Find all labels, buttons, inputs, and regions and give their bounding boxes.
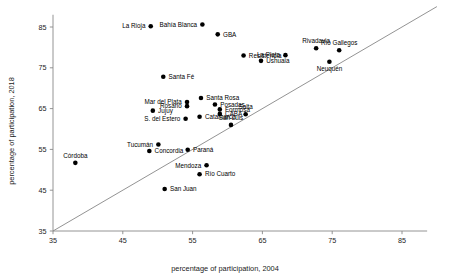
y-axis-title: percentage of participation, 2018: [7, 77, 16, 185]
data-point: [183, 117, 188, 122]
data-point-label: Mendoza: [175, 162, 201, 169]
data-point: [204, 163, 209, 168]
data-point-label: Salta: [238, 103, 253, 110]
data-point: [337, 48, 342, 53]
data-point: [161, 74, 166, 79]
data-point: [156, 142, 161, 147]
x-tick-label: 35: [49, 236, 57, 245]
data-point: [327, 59, 332, 64]
y-tick-label: 75: [39, 63, 47, 72]
data-point: [197, 114, 202, 119]
data-point: [314, 46, 319, 51]
data-point-label: Córdoba: [63, 152, 88, 159]
data-point-label: Paraná: [193, 146, 214, 153]
data-point-label: Tucumán: [127, 141, 154, 148]
x-tick-label: 45: [119, 236, 127, 245]
data-point: [162, 187, 167, 192]
data-point-label: Ushuaia: [266, 57, 290, 64]
data-point: [215, 32, 220, 37]
data-point: [213, 102, 218, 107]
data-point: [199, 96, 204, 101]
x-tick-label: 55: [189, 236, 197, 245]
y-tick-label: 65: [39, 104, 47, 113]
y-tick-label: 85: [39, 23, 47, 32]
data-point-label: Bahía Blanca: [160, 21, 198, 28]
x-axis-title: percentage of participation, 2004: [171, 264, 279, 273]
data-point-label: San Juan: [170, 185, 197, 192]
data-point: [185, 104, 190, 109]
plot-background: [0, 0, 450, 278]
data-point: [241, 53, 246, 58]
data-point: [197, 172, 202, 177]
data-point-label: Concordia: [155, 147, 184, 154]
data-point-label: Neuquén: [317, 65, 343, 73]
data-point: [259, 59, 264, 64]
data-point-label: Santa Fé: [169, 73, 195, 80]
data-point: [185, 100, 190, 105]
data-point-label: GBA: [223, 31, 237, 38]
y-tick-label: 35: [39, 227, 47, 236]
y-tick-label: 45: [39, 186, 47, 195]
data-point-label: San Luis: [219, 114, 244, 121]
data-point-label: Río Gallegos: [321, 39, 357, 47]
x-tick-label: 85: [398, 236, 406, 245]
data-point: [73, 161, 78, 166]
data-point: [147, 149, 152, 154]
data-point: [200, 22, 205, 27]
chart-canvas: 354555657585 354555657585 La RiojaBahía …: [0, 0, 450, 278]
data-point-label: Jujuy: [158, 107, 174, 115]
data-point: [243, 112, 248, 117]
data-point: [148, 24, 153, 29]
data-point-label: La Rioja: [122, 22, 146, 30]
x-tick-label: 65: [258, 236, 266, 245]
data-point: [185, 148, 190, 153]
x-tick-label: 75: [328, 236, 336, 245]
y-tick-label: 55: [39, 145, 47, 154]
scatter-plot-figure: 354555657585 354555657585 La RiojaBahía …: [0, 0, 450, 278]
data-point-label: S. del Estero: [144, 115, 181, 122]
data-point: [229, 123, 234, 128]
data-point: [218, 107, 223, 112]
data-point: [151, 108, 156, 113]
data-point-label: Río Cuarto: [205, 170, 236, 177]
